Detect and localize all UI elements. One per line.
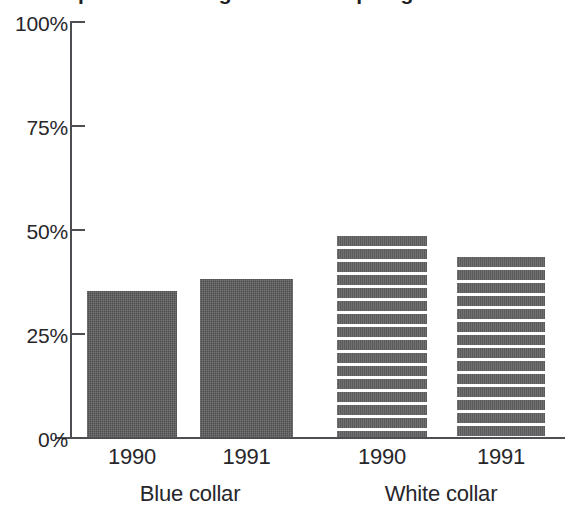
y-tick-label-75: 75% — [27, 117, 68, 138]
y-tick-mark-100 — [70, 21, 85, 23]
x-tick-label-blue-1991: 1991 — [200, 446, 293, 468]
y-tick-mark-75 — [70, 125, 85, 127]
bar-white-collar-1990 — [337, 233, 427, 437]
bar-blue-collar-1991 — [200, 279, 293, 437]
x-tick-label-white-1990: 1990 — [337, 446, 427, 468]
bar-blue-collar-1990 — [87, 291, 177, 437]
group-label-white-collar: White collar — [337, 483, 545, 505]
y-tick-label-100: 100% — [15, 13, 68, 34]
y-tick-mark-25 — [70, 333, 85, 335]
group-label-blue-collar: Blue collar — [87, 483, 293, 505]
y-tick-label-25: 25% — [27, 325, 68, 346]
y-tick-mark-0 — [70, 437, 85, 439]
bar-chart: partial heading cut off at top edge 100%… — [0, 0, 565, 517]
y-tick-label-50: 50% — [27, 221, 68, 242]
plot-area: 100% 75% 50% 25% 0% 1990 1991 1990 1991 … — [0, 0, 565, 517]
x-axis-line — [55, 437, 565, 439]
bar-white-collar-1991 — [457, 254, 545, 437]
x-tick-label-white-1991: 1991 — [457, 446, 545, 468]
x-tick-label-blue-1990: 1990 — [87, 446, 177, 468]
y-tick-label-0: 0% — [38, 429, 68, 450]
y-tick-mark-50 — [70, 229, 85, 231]
